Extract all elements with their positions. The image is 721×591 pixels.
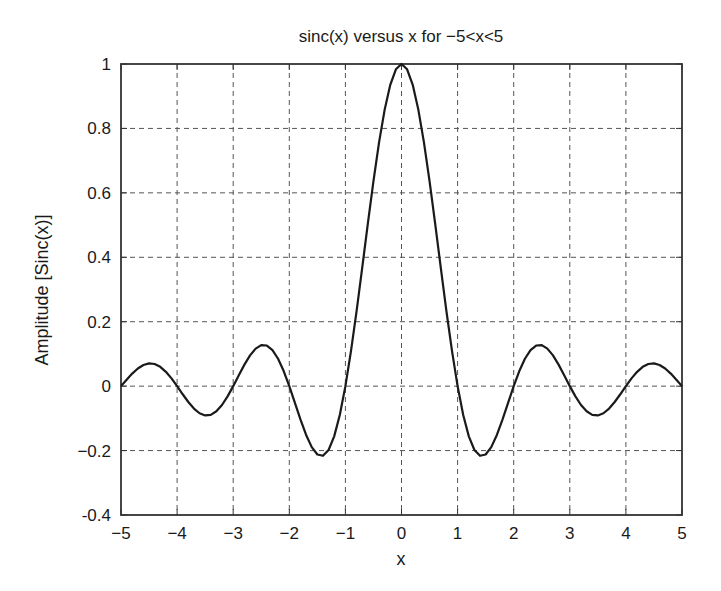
y-tick-label: 0.2: [87, 313, 111, 332]
x-tick-label: −2: [280, 524, 299, 543]
x-tick-label: −3: [224, 524, 243, 543]
x-tick-label: 3: [565, 524, 574, 543]
y-tick-label: -0.4: [82, 506, 111, 525]
y-tick-label: 0.4: [87, 248, 111, 267]
x-tick-label: 1: [453, 524, 462, 543]
y-axis-label: Amplitude [Sinc(x)]: [32, 214, 52, 365]
y-tick-label: −0.2: [77, 442, 111, 461]
sinc-chart: sinc(x) versus x for −5<x<5 −5−4−3−2−101…: [0, 0, 721, 591]
y-tick-label: 0.8: [87, 119, 111, 138]
x-tick-label: 0: [397, 524, 406, 543]
y-tick-label: 0.6: [87, 184, 111, 203]
grid-lines: [121, 64, 682, 515]
x-axis-label: x: [397, 549, 406, 569]
chart-title: sinc(x) versus x for −5<x<5: [299, 27, 504, 46]
x-tick-labels: −5−4−3−2−1012345: [111, 524, 686, 543]
x-tick-label: 2: [509, 524, 518, 543]
y-tick-labels: -0.4−0.200.20.40.60.81: [77, 55, 111, 525]
x-tick-label: 5: [677, 524, 686, 543]
x-tick-label: −1: [336, 524, 355, 543]
y-tick-label: 1: [102, 55, 111, 74]
x-tick-label: −5: [111, 524, 130, 543]
x-tick-label: −4: [167, 524, 186, 543]
x-tick-label: 4: [621, 524, 630, 543]
y-tick-label: 0: [102, 377, 111, 396]
